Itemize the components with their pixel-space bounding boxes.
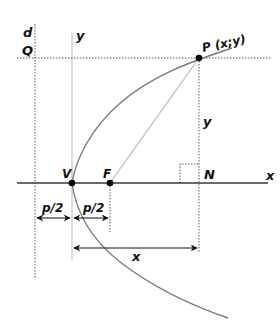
label-directrix: d bbox=[23, 25, 33, 40]
label-n: N bbox=[204, 167, 215, 182]
label-p-half-left: p/2 bbox=[41, 201, 63, 215]
point-p bbox=[196, 55, 203, 62]
right-angle-marker bbox=[180, 164, 199, 183]
label-p-half-right: p/2 bbox=[82, 201, 104, 215]
label-y-axis: y bbox=[76, 28, 85, 43]
label-y-distance: y bbox=[203, 114, 212, 129]
label-q: Q bbox=[22, 43, 33, 58]
parabola-diagram: d Q y P (x;y) y V F N x p/2 p/2 x bbox=[0, 0, 280, 335]
label-focus: F bbox=[103, 167, 112, 181]
label-point-p: P (x;y) bbox=[201, 32, 247, 55]
label-x-axis: x bbox=[265, 168, 275, 183]
label-x-distance: x bbox=[131, 249, 141, 264]
